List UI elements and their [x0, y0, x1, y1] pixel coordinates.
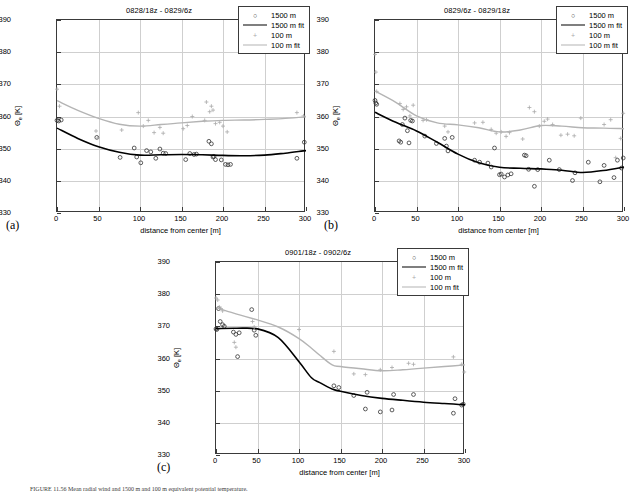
legend-line-swatch — [401, 262, 427, 272]
x-tick-label: 150 — [161, 214, 201, 223]
y-tick-label: 360 — [289, 111, 329, 120]
kelvin-unit: [K] — [13, 106, 22, 117]
y-tick-label: 370 — [289, 79, 329, 88]
y-tick-label: 370 — [130, 321, 170, 330]
scatter-1500m — [214, 307, 465, 415]
legend-line-swatch — [560, 20, 586, 30]
legend-label: 100 m fit — [427, 283, 459, 292]
theta-subscript: e — [335, 117, 341, 120]
legend-line-swatch — [560, 40, 586, 50]
legend-label: 1500 m fit — [586, 21, 622, 30]
x-tick-label: 0 — [36, 214, 76, 223]
x-tick-label: 100 — [437, 214, 477, 223]
x-tick-label: 100 — [119, 214, 159, 223]
legend-item[interactable]: 1500 m fit — [560, 20, 622, 30]
legend-line-swatch — [242, 20, 268, 30]
y-tick-label: 360 — [0, 111, 11, 120]
plus-marker-icon: + — [571, 32, 575, 39]
theta-subscript: e — [176, 359, 182, 362]
theta-symbol: Θ — [13, 120, 22, 126]
x-tick — [624, 207, 625, 211]
x-tick-label: 300 — [444, 456, 484, 465]
legend-marker-circle-icon: ○ — [560, 10, 586, 20]
x-tick-label: 250 — [562, 214, 602, 223]
plus-marker-icon: + — [253, 32, 257, 39]
line-swatch — [243, 45, 267, 46]
legend-item[interactable]: 1500 m fit — [401, 262, 463, 272]
panel-b-label: (b) — [324, 218, 338, 233]
x-tick — [465, 449, 466, 453]
panel-a-x-axis-title: distance from center [m] — [56, 226, 305, 235]
theta-symbol: Θ — [172, 362, 181, 368]
x-tick-label: 300 — [603, 214, 636, 223]
legend-label: 100 m fit — [586, 41, 618, 50]
panel-c-label: (c) — [157, 460, 170, 475]
panel-a-y-axis-title: Θe [K] — [13, 106, 24, 126]
line-swatch — [402, 267, 426, 268]
panel-a-label: (a) — [6, 218, 19, 233]
legend-item[interactable]: +100 m — [560, 30, 622, 40]
fit-curve-100m — [375, 91, 624, 132]
y-tick-label: 380 — [289, 47, 329, 56]
panel-b-legend: ○1500 m1500 m fit+100 m100 m fit — [556, 6, 628, 54]
legend-label: 100 m — [268, 31, 292, 40]
fit-curve-1500m — [57, 128, 306, 156]
y-tick-label: 330 — [0, 208, 11, 217]
legend-label: 1500 m fit — [427, 263, 463, 272]
theta-subscript: e — [17, 117, 23, 120]
legend-item[interactable]: ○1500 m — [401, 252, 463, 262]
x-tick-label: 250 — [244, 214, 284, 223]
line-swatch — [402, 287, 426, 288]
x-tick-label: 200 — [361, 456, 401, 465]
y-tick-label: 390 — [289, 15, 329, 24]
panel-c-legend: ○1500 m1500 m fit+100 m100 m fit — [397, 248, 469, 296]
line-swatch — [561, 25, 585, 26]
y-tick-label: 350 — [289, 143, 329, 152]
plus-marker-icon: + — [412, 274, 416, 281]
fit-curve-100m — [216, 308, 465, 371]
x-tick-label: 50 — [396, 214, 436, 223]
y-tick-label: 380 — [130, 289, 170, 298]
y-tick-label: 340 — [289, 175, 329, 184]
panel-b-y-axis-title: Θe [K] — [331, 106, 342, 126]
fit-curve-100m — [57, 101, 306, 126]
x-tick-label: 150 — [479, 214, 519, 223]
y-tick-label: 390 — [0, 15, 11, 24]
y-tick-label: 340 — [0, 175, 11, 184]
figure-caption: FIGURE 11.56 Mean radial wind and 1500 m… — [0, 486, 636, 495]
x-tick-label: 200 — [520, 214, 560, 223]
legend-line-swatch — [242, 40, 268, 50]
circle-marker-icon: ○ — [571, 12, 575, 19]
line-swatch — [243, 25, 267, 26]
y-tick-label: 340 — [130, 417, 170, 426]
legend-marker-plus-icon: + — [560, 30, 586, 40]
y-tick-label: 390 — [130, 257, 170, 266]
y-tick-label: 360 — [130, 353, 170, 362]
scatter-100m — [55, 87, 306, 140]
legend-item[interactable]: +100 m — [401, 272, 463, 282]
x-tick-label: 150 — [320, 456, 360, 465]
legend-label: 1500 m — [427, 253, 455, 262]
scatter-1500m — [55, 118, 306, 167]
x-tick-label: 200 — [202, 214, 242, 223]
x-tick-label: 100 — [278, 456, 318, 465]
legend-label: 100 m — [586, 31, 610, 40]
legend-label: 100 m — [427, 273, 451, 282]
legend-line-swatch — [401, 282, 427, 292]
kelvin-unit: [K] — [331, 106, 340, 117]
line-swatch — [561, 45, 585, 46]
x-tick-label: 0 — [354, 214, 394, 223]
panel-b: 0829/6z - 0829/18z Θe [K] distance from … — [318, 0, 636, 240]
legend-item[interactable]: 100 m fit — [560, 40, 622, 50]
panel-c-x-axis-title: distance from center [m] — [215, 468, 464, 477]
panel-c: 0901/18z - 0902/6z Θe [K] distance from … — [159, 242, 477, 482]
panel-c-y-axis-title: Θe [K] — [172, 348, 183, 368]
legend-marker-circle-icon: ○ — [242, 10, 268, 20]
panel-a: 0828/18z - 0829/6z Θe [K] distance from … — [0, 0, 318, 240]
legend-item[interactable]: 100 m fit — [401, 282, 463, 292]
legend-item[interactable]: +100 m — [242, 30, 304, 40]
legend-item[interactable]: ○1500 m — [560, 10, 622, 20]
legend-label: 1500 m — [586, 11, 614, 20]
y-tick-label: 380 — [0, 47, 11, 56]
circle-marker-icon: ○ — [412, 254, 416, 261]
